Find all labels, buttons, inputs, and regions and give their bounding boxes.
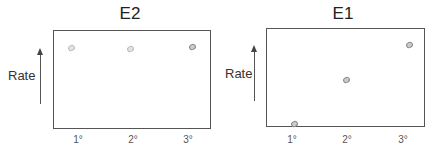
up-arrow-icon <box>37 48 43 55</box>
plot-area <box>266 28 425 127</box>
chart-title: E1 <box>313 4 373 24</box>
data-point <box>67 44 76 53</box>
x-tick-label: 3° <box>393 134 413 145</box>
panel-e2: E2 Rate 1° 2° 3° <box>0 0 217 150</box>
chart-title: E2 <box>100 4 160 24</box>
y-axis-label: Rate <box>8 68 35 83</box>
plot-area <box>53 30 211 129</box>
up-arrow-icon <box>251 45 257 52</box>
panel-e1: E1 Rate 1° 2° 3° <box>217 0 434 150</box>
x-tick-label: 2° <box>337 134 357 145</box>
data-point <box>290 120 299 129</box>
data-point <box>188 43 197 52</box>
y-axis-label: Rate <box>225 66 252 81</box>
y-axis-arrow-shaft <box>40 54 41 104</box>
y-axis-arrow-shaft <box>254 51 255 101</box>
data-point <box>405 41 414 50</box>
x-tick-label: 3° <box>178 134 198 145</box>
data-point <box>126 45 135 54</box>
x-tick-label: 2° <box>123 134 143 145</box>
x-tick-label: 1° <box>282 134 302 145</box>
x-tick-label: 1° <box>68 134 88 145</box>
data-point <box>342 76 351 85</box>
